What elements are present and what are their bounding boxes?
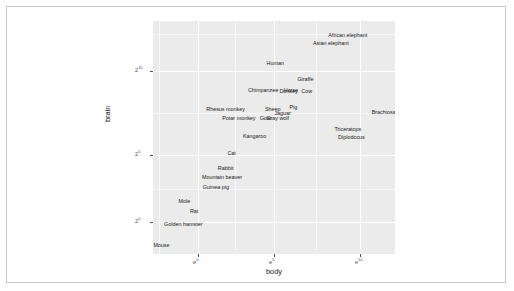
y-axis-tick-mark <box>150 71 153 72</box>
gridline-major-vertical <box>198 21 199 254</box>
data-point-label: Diplodocus <box>338 135 365 140</box>
data-point-label: Chimpanzee <box>248 88 278 93</box>
y-axis-tick-mark <box>150 155 153 156</box>
data-point-label: Donkey <box>279 89 297 94</box>
data-point-label: Rhesus monkey <box>206 107 245 112</box>
gridline-minor-vertical <box>316 21 317 254</box>
gridline-minor-vertical <box>159 21 160 254</box>
data-point-label: Asian elephant <box>313 42 349 47</box>
figure-frame: African elephantAsian elephantHumanGiraf… <box>6 6 506 283</box>
data-point-label: Rat <box>190 209 198 214</box>
y-axis-tick-mark <box>150 222 153 223</box>
gridline-major-horizontal <box>153 155 395 156</box>
x-axis-tick-label: e0 <box>193 259 198 265</box>
scatter-plot: African elephantAsian elephantHumanGiraf… <box>7 7 507 284</box>
x-axis-tick-label: e5 <box>269 259 274 265</box>
data-point-label: Mountain beaver <box>202 176 242 181</box>
data-point-label: Human <box>267 61 284 66</box>
data-point-label: Brachiosaurus <box>372 110 395 115</box>
data-point-label: Cow <box>301 89 312 94</box>
data-point-label: Rabbit <box>218 166 234 171</box>
data-point-label: Giraffe <box>297 78 313 83</box>
y-axis-tick-label: 20 <box>135 218 140 224</box>
data-point-label: Mole <box>179 200 191 205</box>
data-point-label: Guinea pig <box>203 185 229 190</box>
data-point-label: Triceratops <box>334 127 361 132</box>
data-point-label: African elephant <box>328 33 367 38</box>
y-axis-title: brain <box>103 106 112 122</box>
y-axis-tick-label: 25 <box>135 151 140 157</box>
y-axis-tick-label: 210 <box>135 67 143 73</box>
x-axis-title: body <box>153 267 395 276</box>
x-axis-tick-label: e10 <box>355 259 363 265</box>
data-point-label: Potar monkey <box>222 116 255 121</box>
data-point-label: Kangaroo <box>243 134 266 139</box>
data-point-label: Gray wolf <box>266 116 289 121</box>
gridline-major-horizontal <box>153 71 395 72</box>
data-point-label: Mouse <box>153 243 169 248</box>
data-point-label: Golden hamster <box>164 222 202 227</box>
data-point-label: Cat <box>227 151 235 156</box>
plot-panel: African elephantAsian elephantHumanGiraf… <box>153 21 395 254</box>
gridline-minor-vertical <box>235 21 236 254</box>
gridline-major-vertical <box>274 21 275 254</box>
